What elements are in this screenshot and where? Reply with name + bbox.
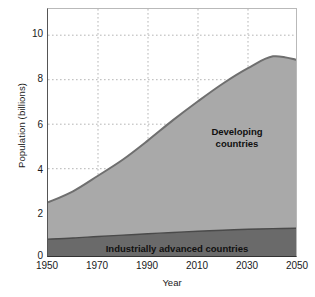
total-population-area bbox=[48, 56, 297, 257]
y-tick-label-10: 10 bbox=[3, 29, 43, 39]
y-tick-label-2: 2 bbox=[3, 209, 43, 219]
x-tick-label-1990: 1990 bbox=[125, 260, 169, 271]
series-label-industrially-advanced-countries: Industrially advanced countries bbox=[82, 243, 272, 255]
x-tick-label-2050: 2050 bbox=[275, 260, 315, 271]
population-area-chart: Population (billions) 10 8 6 4 2 0 bbox=[0, 0, 315, 297]
series-label-developing-countries: Developing countries bbox=[195, 126, 279, 150]
y-tick-label-4: 4 bbox=[3, 165, 43, 175]
x-tick-label-2030: 2030 bbox=[225, 260, 269, 271]
x-tick-label-1950: 1950 bbox=[25, 260, 69, 271]
x-axis-title: Year bbox=[47, 277, 297, 288]
x-tick-label-2010: 2010 bbox=[175, 260, 219, 271]
y-tick-label-6: 6 bbox=[3, 120, 43, 130]
x-tick-label-1970: 1970 bbox=[75, 260, 119, 271]
y-tick-label-8: 8 bbox=[3, 74, 43, 84]
